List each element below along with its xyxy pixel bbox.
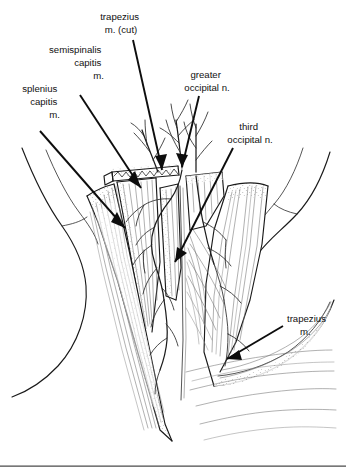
trapezius-cut-stub-left [104, 172, 113, 185]
label-splenius-capitis: splenius capitis m. [22, 83, 60, 120]
label-greater-occipital-n: greater occipital n. [184, 69, 229, 93]
trapezius-cut-edge [112, 163, 179, 181]
label-third-occipital-n: third occipital n. [227, 121, 272, 145]
trapezius-flap [186, 172, 334, 386]
midline-raphe [180, 186, 186, 400]
label-trapezius-cut: trapezius m. (cut) [100, 11, 142, 35]
neck-contour-left [12, 148, 98, 397]
anatomical-figure: trapezius m. (cut) semispinalis capitis … [0, 0, 346, 470]
label-semispinalis-capitis: semispinalis capitis m. [49, 44, 104, 81]
leader-semispinalis-capitis [80, 95, 141, 188]
figure-canvas: trapezius m. (cut) semispinalis capitis … [0, 0, 346, 470]
